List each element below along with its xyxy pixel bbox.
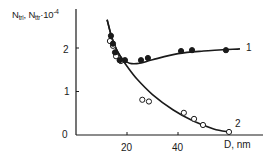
fitted-curves bbox=[107, 20, 240, 132]
filled-circle-marker bbox=[108, 33, 113, 38]
open-circle-marker bbox=[226, 129, 231, 134]
data-markers bbox=[107, 33, 231, 134]
y-tick-label-2: 2 bbox=[63, 44, 69, 55]
curve-label-1: 1 bbox=[246, 42, 252, 53]
x-tick-label-40: 40 bbox=[172, 142, 183, 153]
y-axis-label: Ntri, Nttr·10-4 bbox=[12, 8, 59, 21]
filled-circle-marker bbox=[145, 55, 150, 60]
axes bbox=[76, 9, 263, 135]
filled-circle-marker bbox=[112, 50, 117, 55]
y-tick-label-0: 0 bbox=[62, 129, 68, 140]
open-circle-marker bbox=[140, 97, 145, 102]
curve-series-1 bbox=[107, 20, 240, 64]
x-tick-label-20: 20 bbox=[121, 142, 132, 153]
curve-label-2: 2 bbox=[235, 118, 241, 129]
filled-circle-marker bbox=[122, 58, 127, 63]
filled-circle-marker bbox=[178, 48, 183, 53]
filled-circle-marker bbox=[110, 41, 115, 46]
y-tick-label-1: 1 bbox=[64, 86, 70, 97]
curve-series-2 bbox=[107, 20, 229, 132]
filled-circle-marker bbox=[117, 58, 122, 63]
filled-circle-marker bbox=[189, 48, 194, 53]
filled-circle-marker bbox=[138, 58, 143, 63]
open-circle-marker bbox=[146, 99, 151, 104]
open-circle-marker bbox=[200, 122, 205, 127]
open-circle-marker bbox=[181, 110, 186, 115]
filled-circle-marker bbox=[223, 48, 228, 53]
open-circle-marker bbox=[191, 116, 196, 121]
chart-canvas bbox=[0, 0, 275, 158]
x-axis-label: D, nm bbox=[224, 139, 251, 150]
